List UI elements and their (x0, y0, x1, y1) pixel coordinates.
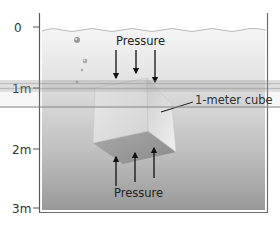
pressure-label-bottom: Pressure (114, 186, 163, 200)
water-surface-line (42, 29, 266, 32)
depth-label-2m: 2m (12, 143, 31, 157)
horizontal-band (0, 81, 280, 109)
buoyancy-pressure-diagram: 0 1m 2m 3m Pressure Pressure 1-meter cub… (0, 0, 280, 227)
depth-label-3m: 3m (12, 202, 31, 216)
pressure-label-top: Pressure (116, 34, 165, 48)
depth-label-0: 0 (14, 21, 22, 35)
depth-axis: 0 1m 2m 3m (12, 21, 40, 216)
